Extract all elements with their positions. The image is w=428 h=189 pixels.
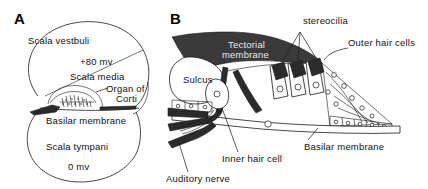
- panel-a-letter: A: [14, 10, 25, 27]
- label-basilar-membrane-b: Basilar membrane: [304, 141, 384, 152]
- label-scala-media: Scala media: [70, 71, 125, 82]
- label-organ-of-corti-line2: Corti: [116, 93, 137, 104]
- label-stereocilia: stereocilia: [303, 15, 348, 26]
- anatomical-figure: A: [0, 0, 428, 189]
- outer-hair-cell-group: [270, 58, 324, 99]
- basilar-membrane-nucleus: [265, 121, 271, 127]
- outer-hair-cell-3-nucleus: [313, 82, 319, 88]
- label-scala-tympani: Scala tympani: [46, 141, 108, 152]
- panel-b-letter: B: [170, 10, 181, 27]
- label-potential-zero: 0 mv: [68, 161, 89, 172]
- outer-pillar-cell: [233, 70, 262, 113]
- label-auditory-nerve: Auditory nerve: [166, 173, 230, 184]
- label-outer-hair-cells: Outer hair cells: [348, 37, 415, 48]
- panel-b: B: [166, 10, 415, 184]
- label-tectorial-membrane-line2: membrane: [222, 49, 269, 60]
- label-scala-vestibuli: Scala vestbuli: [28, 35, 89, 46]
- basilar-membrane-band-a: [100, 106, 136, 110]
- auditory-nerve-leader: [178, 140, 188, 172]
- label-inner-hair-cell: Inner hair cell: [222, 153, 282, 164]
- inner-hair-cell-leader: [222, 108, 238, 152]
- outer-hair-cell-1-nucleus: [277, 86, 283, 92]
- panel-a: A: [14, 10, 149, 182]
- label-potential-plus80: +80 mv: [80, 56, 113, 67]
- tectorial-membrane-a: [50, 91, 96, 103]
- label-sulcus: Sulcus: [183, 74, 213, 85]
- inner-hair-cell-nucleus: [214, 91, 220, 97]
- label-basilar-membrane-a: Basilar membrane: [46, 115, 126, 126]
- hensen-cell-divisions: [326, 72, 380, 124]
- outer-hair-cell-2-nucleus: [295, 84, 301, 90]
- outer-hair-cells-leader: [324, 48, 348, 60]
- auditory-nerve-a: [30, 105, 60, 115]
- spiral-lamina-band: [168, 108, 208, 118]
- organ-of-corti-stipple: [60, 95, 94, 107]
